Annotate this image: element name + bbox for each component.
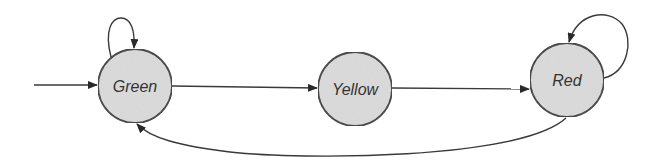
state-diagram: Green Yellow Red xyxy=(0,0,663,161)
state-green: Green xyxy=(98,49,172,123)
state-red: Red xyxy=(530,43,604,117)
state-green-label: Green xyxy=(113,78,158,95)
state-red-label: Red xyxy=(552,72,582,89)
green-to-yellow-arrow xyxy=(172,86,317,88)
state-yellow-label: Yellow xyxy=(332,81,380,98)
yellow-to-red-arrow xyxy=(392,88,529,89)
state-yellow: Yellow xyxy=(318,52,392,126)
